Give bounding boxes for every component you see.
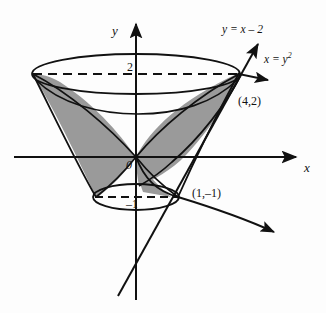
tick-label-minus-1: –1 bbox=[126, 198, 138, 210]
curve-label-line: y = x – 2 bbox=[222, 24, 263, 36]
figure-canvas bbox=[0, 0, 326, 313]
point-label-1-minus-1: (1,–1) bbox=[192, 187, 221, 199]
origin-label: 0 bbox=[126, 159, 132, 171]
tick-label-2: 2 bbox=[127, 61, 133, 73]
shaded-left-lobe bbox=[33, 74, 136, 197]
math-figure: y x 0 2 –1 y = x – 2 x = y2 (4,2) (1,–1) bbox=[0, 0, 326, 313]
curve-label-parabola-base: x = y bbox=[264, 53, 288, 65]
point-marker-1-minus-1 bbox=[176, 195, 179, 198]
point-label-4-2: (4,2) bbox=[238, 95, 261, 107]
point-marker-4-2 bbox=[237, 72, 240, 75]
curve-label-parabola: x = y2 bbox=[264, 52, 292, 65]
axis-label-y: y bbox=[112, 24, 118, 37]
curve-label-parabola-exponent: 2 bbox=[288, 51, 292, 60]
axis-label-x: x bbox=[304, 161, 310, 174]
